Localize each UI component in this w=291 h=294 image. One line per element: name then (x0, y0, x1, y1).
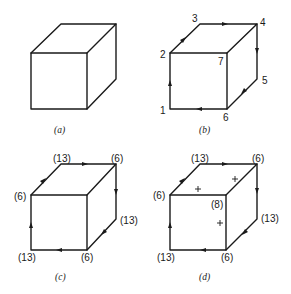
vertex-label-5: (13) (261, 213, 279, 224)
arrow-right-icon (222, 22, 228, 26)
arrow-down-icon (114, 189, 118, 195)
caption-a: (a) (54, 125, 65, 136)
vertex-label-6: (6) (81, 252, 93, 263)
vertex-label-6: 6 (223, 112, 229, 123)
arrow-left-icon (200, 248, 206, 252)
vertex-label-3: (13) (191, 153, 209, 164)
plus-icon-top-left (195, 186, 201, 192)
arrow-left-icon (196, 107, 202, 111)
side-face (87, 24, 116, 109)
arrow-up-icon (168, 80, 172, 86)
panel-c: (13) (6) (13) (6) (13) (6) (c) (14, 153, 138, 283)
side-face (227, 24, 257, 109)
arrow-down-icon (255, 48, 259, 54)
plus-icon-top-right (232, 176, 238, 182)
front-face (31, 53, 87, 109)
vertex-label-6: (6) (221, 252, 233, 263)
vertex-label-5: (13) (120, 215, 138, 226)
vertex-label-2: (6) (153, 190, 165, 201)
side-face (87, 164, 116, 250)
arrow-right-icon (222, 162, 228, 166)
panel-d: (13) (6) (13) (6) (13) (6) (8) (d) (153, 153, 279, 283)
front-face (31, 195, 87, 250)
cube-figure: (a) 1 2 3 4 5 6 7 (b) (13) (6) (13) (0, 0, 291, 294)
panel-b: 1 2 3 4 5 6 7 (b) (160, 13, 268, 136)
vertex-label-4: 4 (260, 17, 266, 28)
vertex-label-4: (6) (252, 153, 264, 164)
caption-c: (c) (55, 272, 66, 283)
arrow-up-icon (29, 222, 33, 228)
arrow-left-icon (56, 248, 62, 252)
vertex-label-3: 3 (192, 13, 198, 24)
arrow-right-icon (82, 162, 88, 166)
caption-b: (b) (199, 125, 210, 136)
arrow-up-icon (168, 222, 172, 228)
arrow-diag-down-icon (242, 229, 248, 235)
vertex-label-7: 7 (218, 56, 224, 67)
caption-d: (d) (199, 272, 210, 283)
vertex-label-1: (13) (18, 252, 36, 263)
vertex-label-2: (6) (14, 191, 26, 202)
arrow-down-icon (255, 188, 259, 194)
vertex-label-3: (13) (53, 153, 71, 164)
side-face (226, 164, 257, 250)
top-face (31, 24, 116, 53)
vertex-label-4: (6) (111, 153, 123, 164)
vertex-label-1: 1 (160, 105, 166, 116)
panel-a: (a) (31, 24, 116, 136)
vertex-label-1: (13) (157, 252, 175, 263)
arrow-diag-down-icon (241, 88, 247, 94)
vertex-label-2: 2 (160, 49, 166, 60)
plus-icon-front (217, 220, 223, 226)
vertex-label-7: (8) (211, 199, 223, 210)
vertex-label-5: 5 (262, 75, 268, 86)
